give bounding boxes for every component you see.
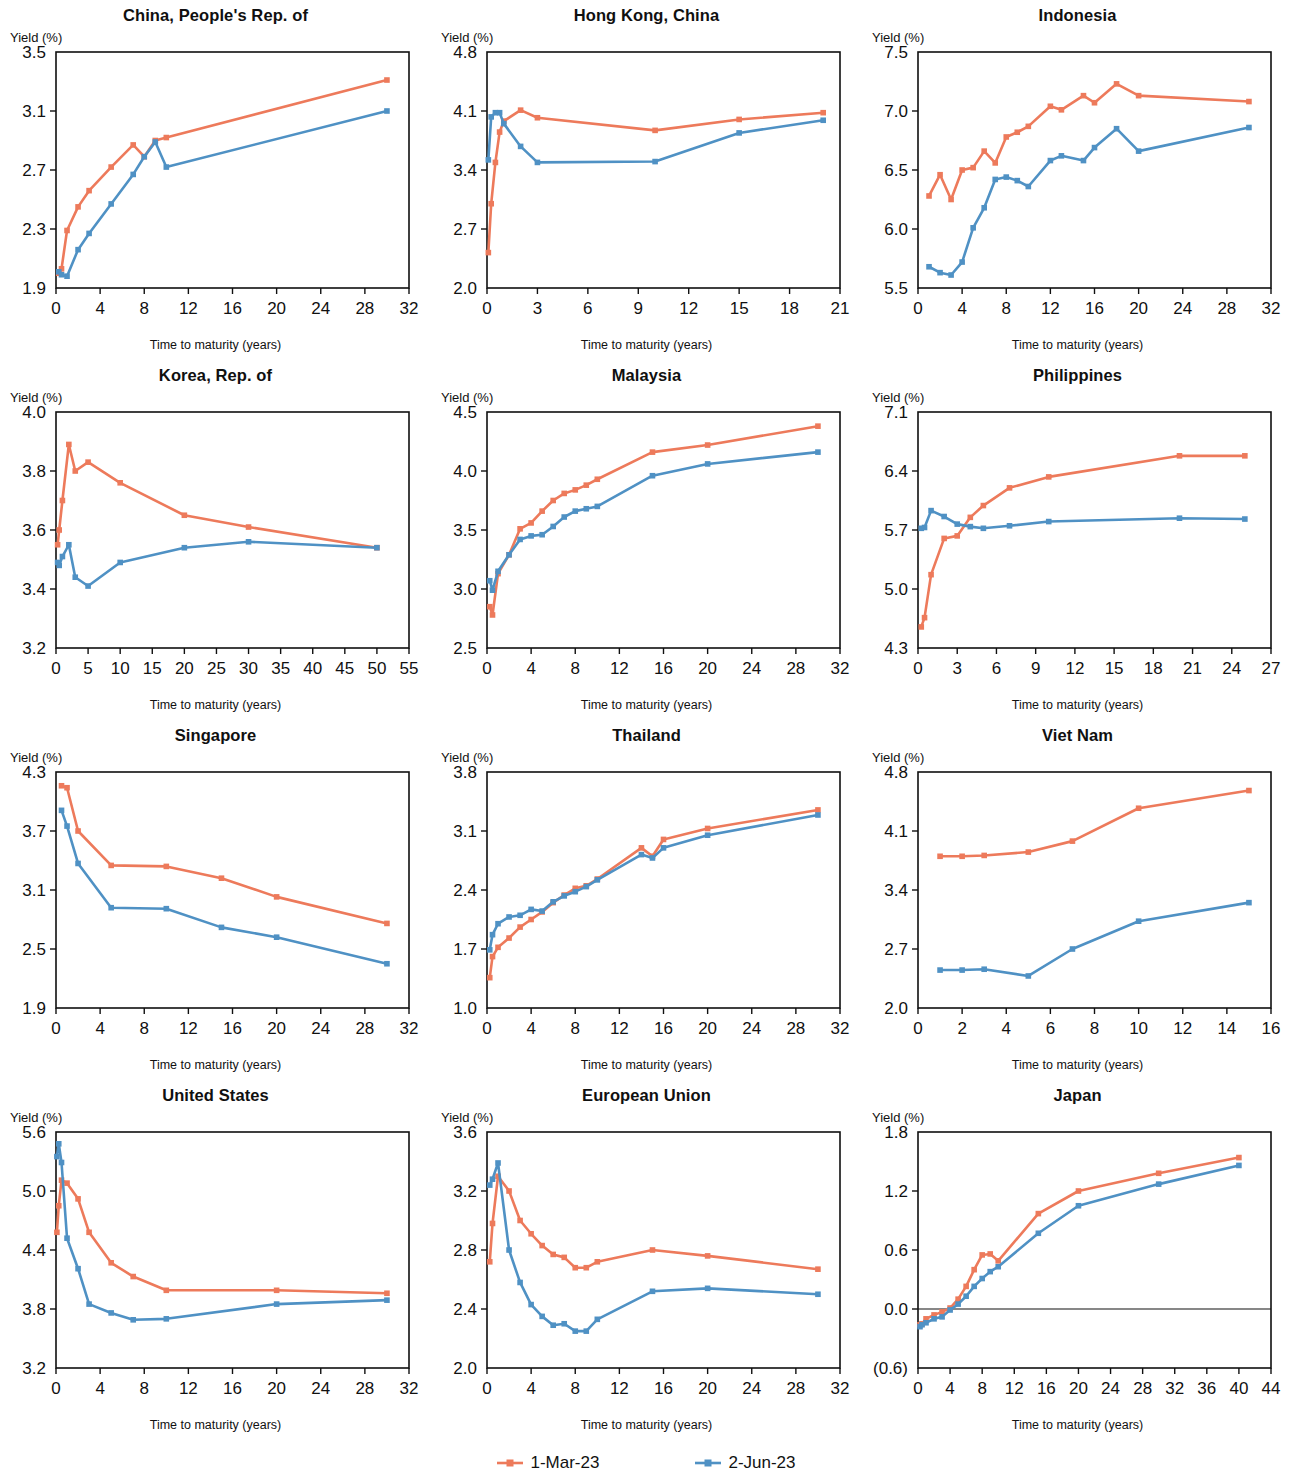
data-point-marker — [518, 107, 524, 113]
x-tick-label: 12 — [610, 1019, 629, 1038]
data-point-marker — [736, 130, 742, 136]
data-point-marker — [495, 569, 501, 575]
chart-panel: MalaysiaYield (%)Time to maturity (years… — [431, 360, 862, 720]
y-tick-label: 4.3 — [884, 639, 908, 658]
data-point-marker — [1026, 849, 1032, 855]
data-point-marker — [561, 893, 567, 899]
data-point-marker — [922, 525, 928, 531]
data-point-marker — [384, 961, 390, 967]
data-point-marker — [736, 117, 742, 123]
x-tick-label: 5 — [83, 659, 92, 678]
x-tick-label: 16 — [654, 1019, 673, 1038]
y-tick-label: 4.3 — [22, 763, 46, 782]
data-point-marker — [1007, 485, 1013, 491]
data-point-marker — [384, 1297, 390, 1303]
y-tick-label: 4.8 — [884, 763, 908, 782]
series-line — [490, 452, 818, 590]
data-point-marker — [56, 1203, 62, 1209]
x-tick-label: 8 — [571, 1019, 580, 1038]
data-point-marker — [1236, 1163, 1242, 1169]
data-point-marker — [705, 461, 711, 467]
x-tick-label: 16 — [223, 1379, 242, 1398]
data-point-marker — [108, 863, 114, 869]
data-point-marker — [595, 504, 601, 510]
data-point-marker — [995, 1264, 1001, 1270]
plot-area: 0481216202428323.23.84.45.05.6 — [0, 1080, 431, 1440]
data-point-marker — [59, 272, 65, 278]
data-point-marker — [572, 508, 578, 514]
data-point-marker — [130, 1317, 136, 1323]
y-tick-label: 2.7 — [453, 220, 477, 239]
data-point-marker — [374, 545, 380, 551]
data-point-marker — [572, 1328, 578, 1334]
x-tick-label: 24 — [742, 1019, 761, 1038]
data-point-marker — [954, 521, 960, 527]
data-point-marker — [815, 1291, 821, 1297]
data-point-marker — [506, 935, 512, 941]
y-tick-label: 1.2 — [884, 1182, 908, 1201]
data-point-marker — [490, 1221, 496, 1227]
y-tick-label: 6.5 — [884, 161, 908, 180]
x-tick-label: 20 — [267, 1379, 286, 1398]
data-point-marker — [506, 914, 512, 920]
x-tick-label: 12 — [610, 1379, 629, 1398]
data-point-marker — [815, 812, 821, 818]
data-point-marker — [219, 875, 225, 881]
data-point-marker — [705, 1286, 711, 1292]
data-point-marker — [517, 537, 523, 543]
data-point-marker — [487, 975, 493, 981]
x-tick-label: 0 — [51, 1379, 60, 1398]
data-point-marker — [583, 1265, 589, 1271]
plot-frame — [56, 412, 409, 648]
data-point-marker — [970, 165, 976, 171]
x-tick-label: 24 — [311, 299, 330, 318]
x-tick-label: 4 — [95, 1019, 104, 1038]
x-tick-label: 8 — [140, 1019, 149, 1038]
x-tick-label: 4 — [95, 1379, 104, 1398]
data-point-marker — [820, 110, 826, 116]
data-point-marker — [60, 498, 66, 504]
data-point-marker — [1076, 1188, 1082, 1194]
data-point-marker — [59, 808, 65, 814]
series-line — [920, 1158, 1239, 1325]
data-point-marker — [490, 932, 496, 938]
data-point-marker — [937, 853, 943, 859]
data-point-marker — [490, 1176, 496, 1182]
y-tick-label: 2.5 — [453, 639, 477, 658]
data-point-marker — [518, 144, 524, 150]
x-tick-label: 15 — [1105, 659, 1124, 678]
data-point-marker — [141, 154, 147, 160]
x-tick-label: 20 — [1069, 1379, 1088, 1398]
data-point-marker — [75, 861, 81, 867]
series-line — [58, 444, 377, 547]
data-point-marker — [820, 117, 826, 123]
x-tick-label: 32 — [831, 1379, 850, 1398]
x-tick-label: 20 — [698, 659, 717, 678]
data-point-marker — [979, 1252, 985, 1258]
data-point-marker — [246, 539, 252, 545]
data-point-marker — [517, 924, 523, 930]
data-point-marker — [130, 1274, 136, 1280]
data-point-marker — [539, 508, 545, 514]
y-tick-label: 7.1 — [884, 403, 908, 422]
data-point-marker — [75, 247, 81, 253]
legend-color-swatch — [695, 1457, 721, 1469]
y-tick-label: 2.7 — [22, 161, 46, 180]
plot-area: 0369121518212.02.73.44.14.8 — [431, 0, 862, 360]
y-tick-label: 4.4 — [22, 1241, 46, 1260]
x-tick-label: 32 — [831, 659, 850, 678]
x-tick-label: 12 — [1065, 659, 1084, 678]
y-tick-label: 3.4 — [884, 881, 908, 900]
data-point-marker — [572, 1265, 578, 1271]
data-point-marker — [815, 449, 821, 455]
data-point-marker — [64, 1180, 70, 1186]
x-tick-label: 10 — [111, 659, 130, 678]
x-tick-label: 6 — [1046, 1019, 1055, 1038]
x-tick-label: 20 — [267, 299, 286, 318]
x-tick-label: 16 — [223, 1019, 242, 1038]
data-point-marker — [650, 1247, 656, 1253]
y-tick-label: 4.8 — [453, 43, 477, 62]
data-point-marker — [1136, 93, 1142, 99]
x-tick-label: 8 — [140, 1379, 149, 1398]
plot-area: 0481216202428325.56.06.57.07.5 — [862, 0, 1293, 360]
